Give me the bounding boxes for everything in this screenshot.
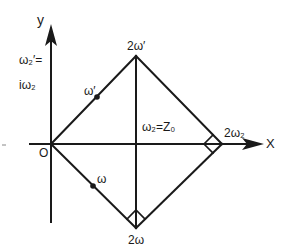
vertex-bottom-label: 2ω xyxy=(128,234,144,246)
vertex-top-label: 2ω′ xyxy=(127,40,145,52)
point-omega-prime-label: ω′ xyxy=(84,85,96,97)
point-omega xyxy=(90,183,96,189)
y-axis-label: y xyxy=(37,13,44,27)
origin-label: O xyxy=(39,147,48,159)
edge-origin-to-top xyxy=(51,56,136,144)
point-omega-label: ω xyxy=(97,173,106,185)
vertex-right-label: 2ω₂ xyxy=(224,127,245,139)
left-annotation-line1: ω₂′= xyxy=(19,54,42,66)
edge-right-to-bottom xyxy=(136,144,222,228)
left-annotation-line2: iω₂ xyxy=(19,79,36,91)
x-axis-label: X xyxy=(266,137,275,150)
center-annotation-label: ω₂=Z₀ xyxy=(142,121,175,133)
